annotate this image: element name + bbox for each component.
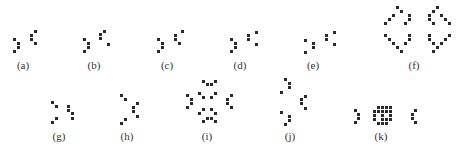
- pattern-dot: [414, 121, 417, 124]
- panel-label: (k): [375, 130, 388, 142]
- pattern-dot: [385, 110, 388, 113]
- pattern-dot: [381, 122, 384, 125]
- pattern-dot: [381, 114, 384, 117]
- pattern-dot: [381, 106, 384, 109]
- pattern-dot: [354, 109, 357, 112]
- pattern-dot: [389, 118, 392, 121]
- pattern-dot: [385, 106, 388, 109]
- pattern-dot: [377, 122, 380, 125]
- pattern-dot: [389, 114, 392, 117]
- pattern-dot: [354, 121, 357, 124]
- pattern-dot: [411, 113, 414, 116]
- pattern-dot: [373, 118, 376, 121]
- pattern-dot: [389, 110, 392, 113]
- pattern-dot: [357, 117, 360, 120]
- pattern-dot: [411, 117, 414, 120]
- dot-pattern-figure: (a)(b)(c)(d)(e)(f)(g)(h)(i)(j)(k): [0, 0, 466, 149]
- pattern-panel-k: (k): [0, 0, 466, 149]
- pattern-dot: [389, 106, 392, 109]
- pattern-dot: [377, 106, 380, 109]
- pattern-dot: [357, 113, 360, 116]
- pattern-dot: [414, 109, 417, 112]
- pattern-dot: [373, 114, 376, 117]
- pattern-dot: [377, 110, 380, 113]
- pattern-dot: [385, 118, 388, 121]
- pattern-dot: [385, 122, 388, 125]
- pattern-dot: [373, 110, 376, 113]
- pattern-dot: [381, 110, 384, 113]
- pattern-dot: [381, 118, 384, 121]
